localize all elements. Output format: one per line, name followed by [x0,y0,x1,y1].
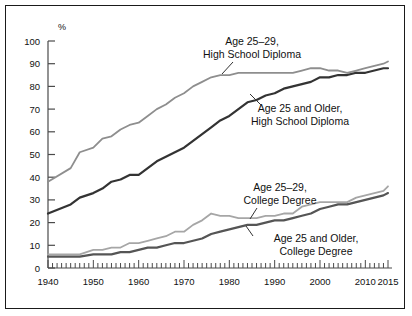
y-axis-tick-label: 0 [35,263,40,274]
x-axis-tick-label: 1980 [219,276,240,287]
x-axis-tick-label: 1960 [128,276,149,287]
annotation-age-25-29-high-school-diploma-line1: Age 25–29, [225,35,279,47]
x-axis-tick-label: 1990 [264,276,285,287]
x-axis-tick-label: 1940 [37,276,58,287]
annotation-age-25-29-college-degree-line1: Age 25–29, [253,181,307,193]
annotation-age-25-29-high-school-diploma-line2: High School Diploma [203,48,301,60]
leader-line-age-25-and-older-high-school-diploma [250,94,262,106]
y-axis-tick-label: 90 [29,58,40,69]
y-axis-tick-label: 70 [29,104,40,115]
annotation-age-25-and-older-college-degree-line1: Age 25 and Older, [274,232,359,244]
y-axis-tick-label: 100 [24,36,40,47]
x-axis-tick-label: 2015 [377,276,398,287]
x-axis-tick-label: 2000 [309,276,330,287]
y-axis-tick-label: 10 [29,240,40,251]
annotation-age-25-29-college-degree-line2: College Degree [244,194,317,206]
x-axis-tick-label: 2010 [355,276,376,287]
annotation-age-25-and-older-high-school-diploma-line2: High School Diploma [251,115,349,127]
y-axis-tick-label: 40 [29,172,40,183]
leader-line-age-25-and-older-college-degree [246,226,253,236]
annotation-age-25-and-older-college-degree-line2: College Degree [280,245,353,257]
y-axis-unit-label: % [58,22,66,32]
chart-stage: 0102030405060708090100%19401950196019701… [0,0,412,316]
y-axis-tick-label: 80 [29,81,40,92]
education-attainment-line-chart: 0102030405060708090100%19401950196019701… [0,0,412,316]
y-axis-tick-label: 20 [29,217,40,228]
x-axis-tick-label: 1950 [83,276,104,287]
y-axis-tick-label: 60 [29,126,40,137]
x-axis-tick-label: 1970 [173,276,194,287]
annotation-age-25-and-older-high-school-diploma-line1: Age 25 and Older, [258,102,343,114]
leader-line-age-25-29-high-school-diploma [222,62,233,74]
y-axis-tick-label: 30 [29,194,40,205]
y-axis-tick-label: 50 [29,149,40,160]
